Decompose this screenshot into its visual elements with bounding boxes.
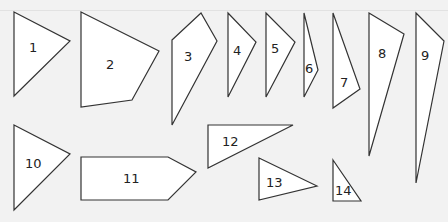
polygon-3: [172, 13, 217, 125]
polygon-10: [14, 125, 70, 210]
polygon-8: [369, 13, 404, 156]
shape-4: 4: [228, 13, 256, 97]
shape-label-1: 1: [29, 40, 37, 55]
shape-label-9: 9: [421, 48, 429, 63]
polygon-1: [14, 12, 70, 96]
shape-11: 11: [81, 157, 196, 200]
shape-8: 8: [369, 13, 404, 156]
shape-label-2: 2: [106, 57, 114, 72]
shape-label-10: 10: [25, 156, 42, 171]
shape-5: 5: [266, 13, 295, 97]
polygon-7: [333, 13, 360, 108]
shape-14: 14: [333, 160, 361, 201]
shape-6: 6: [304, 13, 318, 97]
shape-7: 7: [333, 13, 360, 108]
polygon-12: [208, 125, 293, 168]
shape-10: 10: [14, 125, 70, 210]
shape-9: 9: [416, 13, 444, 183]
shapes-diagram: 1234567891011121314: [0, 0, 448, 222]
shape-3: 3: [172, 13, 217, 125]
polygon-2: [81, 12, 159, 107]
shape-label-6: 6: [305, 61, 313, 76]
shape-label-13: 13: [266, 175, 283, 190]
shape-2: 2: [81, 12, 159, 107]
shape-label-11: 11: [123, 171, 140, 186]
shape-label-3: 3: [184, 49, 192, 64]
shape-label-14: 14: [335, 183, 352, 198]
shape-12: 12: [208, 125, 293, 168]
polygon-9: [416, 13, 444, 183]
polygon-6: [304, 13, 318, 97]
shape-13: 13: [259, 158, 317, 200]
shape-label-12: 12: [222, 134, 239, 149]
shape-label-4: 4: [233, 43, 241, 58]
shape-label-8: 8: [378, 46, 386, 61]
shape-label-7: 7: [340, 75, 348, 90]
shape-1: 1: [14, 12, 70, 96]
shape-label-5: 5: [271, 41, 279, 56]
